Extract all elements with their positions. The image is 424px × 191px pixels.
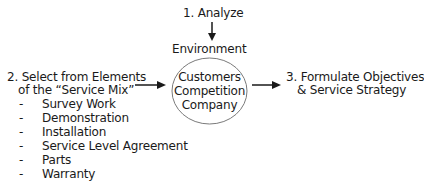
list-item-label: Parts (42, 153, 71, 167)
step1-label: 1. Analyze (183, 6, 244, 20)
list-item-label: Demonstration (42, 111, 129, 125)
circle-line-customers: Customers (172, 70, 247, 84)
bullet-dash: - (19, 125, 23, 139)
step2-label-line2: of the “Service Mix” (18, 83, 134, 97)
step2-label-line1: 2. Select from Elements (7, 70, 146, 84)
circle-line-company: Company (172, 98, 247, 112)
bullet-dash: - (19, 139, 23, 153)
list-item-label: Installation (42, 125, 106, 139)
bullet-dash: - (19, 153, 23, 167)
list-item-label: Warranty (42, 167, 95, 181)
circle-line-competition: Competition (172, 84, 247, 98)
bullet-dash: - (19, 167, 23, 181)
bullet-dash: - (19, 97, 23, 111)
arrow-right-icon (252, 81, 281, 89)
step3-label-line2: & Service Strategy (297, 83, 406, 97)
arrow-down-icon (208, 22, 216, 41)
list-item-label: Service Level Agreement (42, 139, 188, 153)
bullet-dash: - (19, 111, 23, 125)
environment-label: Environment (172, 42, 246, 56)
circle-text: Customers Competition Company (172, 70, 247, 112)
list-item-label: Survey Work (42, 97, 116, 111)
step3-label-line1: 3. Formulate Objectives (286, 70, 424, 84)
